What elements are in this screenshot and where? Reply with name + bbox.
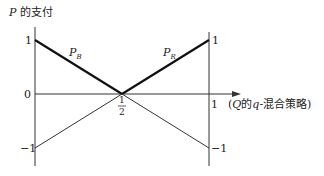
x-tick-half-den: 2 [119, 107, 125, 118]
label-pr: PR [163, 47, 176, 63]
x-tick-half-num: 1 [119, 95, 125, 106]
right-tick-neg1: −1 [211, 143, 227, 154]
x-axis-label: (Q的q-混合策略) [228, 99, 311, 110]
y-tick-neg1: −1 [20, 143, 36, 154]
y-tick-0: 0 [24, 89, 31, 100]
right-tick-1: 1 [212, 35, 219, 46]
x-tick-1: 1 [211, 99, 218, 110]
y-axis-label: P 的支付 [9, 7, 53, 18]
x-axis-arrow-icon [232, 91, 241, 97]
y-tick-1: 1 [25, 35, 32, 46]
payoff-chart [0, 0, 324, 176]
label-pb: PB [69, 47, 82, 63]
line-lower-right [122, 94, 209, 148]
line-lower-left [35, 94, 122, 148]
